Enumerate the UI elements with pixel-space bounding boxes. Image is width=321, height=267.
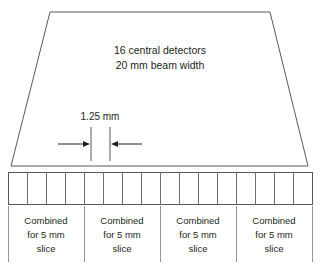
beam-label-line1: 16 central detectors [114,44,206,56]
group-3-label-line3: slice [188,243,207,254]
beam-label-line2: 20 mm beam width [116,59,205,71]
group-4-label-line2: for 5 mm [255,229,293,240]
group-2-label-line3: slice [112,243,131,254]
diagram-canvas: 16 central detectors 20 mm beam width 1.… [0,0,321,267]
group-3-label-line2: for 5 mm [179,229,217,240]
group-1-label-line3: slice [36,243,55,254]
dimension-label: 1.25 mm [81,111,120,122]
group-2-label-line1: Combined [100,215,143,226]
group-3-label-line1: Combined [176,215,219,226]
group-1-label-line2: for 5 mm [27,229,65,240]
group-1-label-line1: Combined [24,215,67,226]
group-2-label-line2: for 5 mm [103,229,141,240]
ct-detector-diagram: 16 central detectors 20 mm beam width 1.… [0,0,321,267]
group-4-label-line1: Combined [252,215,295,226]
group-4-label-line3: slice [264,243,283,254]
beam-trapezoid-outline [11,12,308,166]
